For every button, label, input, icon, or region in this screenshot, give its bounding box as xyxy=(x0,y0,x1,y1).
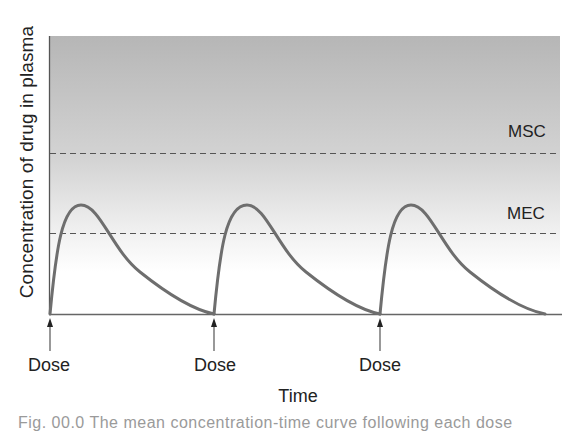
dose-arrow-icon xyxy=(211,318,217,351)
y-axis-label: Concentration of drug in plasma xyxy=(16,26,38,298)
dose-label-1: Dose xyxy=(28,355,70,376)
msc-label: MSC xyxy=(508,122,546,142)
dose-arrows xyxy=(47,318,383,351)
figure-caption: Fig. 00.0 The mean concentration-time cu… xyxy=(18,414,513,432)
x-axis-label: Time xyxy=(278,386,317,407)
mec-label: MEC xyxy=(507,204,545,224)
dose-arrow-icon xyxy=(377,318,383,351)
dose-label-3: Dose xyxy=(359,355,401,376)
dose-label-2: Dose xyxy=(194,355,236,376)
dose-arrow-icon xyxy=(47,318,53,351)
